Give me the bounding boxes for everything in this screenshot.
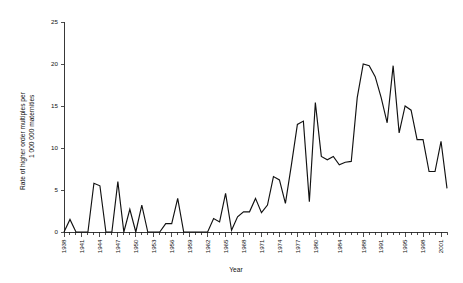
- x-tick-label: 1965: [222, 239, 229, 253]
- chart-figure: 0510152025 19381941194419471950195319561…: [0, 0, 463, 283]
- x-tick-label: 1938: [60, 239, 67, 253]
- line-chart: 0510152025 19381941194419471950195319561…: [0, 0, 463, 283]
- x-tick-label: 1959: [186, 239, 193, 253]
- x-tick-label: 1977: [294, 239, 301, 253]
- x-tick-label: 1980: [312, 239, 319, 253]
- y-tick-label: 15: [51, 102, 58, 109]
- x-tick-label: 1991: [377, 239, 384, 253]
- y-tick-label: 10: [51, 144, 58, 151]
- x-tick-label: 1950: [132, 239, 139, 253]
- y-tick-label: 25: [51, 18, 58, 25]
- y-axis-ticks: 0510152025: [51, 18, 64, 235]
- x-axis: 1938194119441947195019531956195919621965…: [60, 232, 447, 253]
- x-tick-label: 1953: [150, 239, 157, 253]
- x-tick-label: 1988: [360, 239, 367, 253]
- y-axis: 0510152025: [51, 18, 64, 235]
- x-tick-label: 2001: [437, 239, 444, 253]
- x-tick-label: 1947: [114, 239, 121, 253]
- x-tick-label: 1998: [419, 239, 426, 253]
- x-tick-label: 1941: [78, 239, 85, 253]
- y-axis-title-line1: Rate of higher order multiples per: [19, 91, 27, 190]
- x-tick-label: 1956: [168, 239, 175, 253]
- x-tick-label: 1971: [258, 239, 265, 253]
- x-tick-label: 1962: [204, 239, 211, 253]
- x-tick-label: 1968: [240, 239, 247, 253]
- y-tick-label: 20: [51, 60, 58, 67]
- data-series-line: [64, 64, 447, 232]
- y-axis-title: Rate of higher order multiples per 1 000…: [19, 91, 35, 190]
- x-axis-ticks: 1938194119441947195019531956195919621965…: [60, 232, 447, 253]
- y-tick-label: 5: [55, 186, 59, 193]
- y-tick-label: 0: [55, 228, 59, 235]
- x-tick-label: 1995: [401, 239, 408, 253]
- y-axis-title-line2: 1 000 000 maternities: [28, 94, 35, 158]
- x-tick-label: 1944: [96, 239, 103, 253]
- x-tick-label: 1974: [276, 239, 283, 253]
- x-axis-title: Year: [229, 266, 243, 273]
- x-tick-label: 1984: [336, 239, 343, 253]
